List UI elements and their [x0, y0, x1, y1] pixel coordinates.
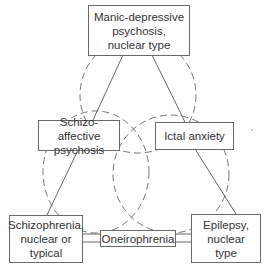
node-text-line: Schizophrenia,: [8, 218, 84, 232]
node-oneirophrenia: Oneirophrenia: [100, 230, 176, 247]
node-schizophrenia: Schizophrenia, nuclear or typical: [9, 215, 83, 263]
node-text-line: Epilepsy,: [203, 218, 249, 232]
node-text-line: type: [203, 246, 249, 260]
node-text-line: nuclear or: [8, 232, 84, 246]
node-text-line: psychosis,: [94, 24, 184, 38]
node-text-line: Schizo-affective: [39, 115, 119, 143]
node-text-line: psychosis: [39, 143, 119, 157]
connector-right-to-bottom-right: [195, 149, 236, 214]
node-manic-depressive: Manic-depressive psychosis, nuclear type: [88, 5, 190, 56]
node-text-line: Oneirophrenia: [102, 232, 175, 246]
connector-top-to-left: [93, 55, 123, 120]
node-ictal-anxiety: Ictal anxiety: [155, 122, 234, 150]
node-text-line: nuclear type: [94, 38, 184, 52]
stray-dot: [251, 129, 253, 131]
connector-top-to-right: [152, 55, 185, 122]
connector-left-to-bottom-left: [47, 150, 78, 215]
node-text-line: typical: [8, 246, 84, 260]
node-schizo-affective: Schizo-affective psychosis: [38, 120, 120, 151]
node-text-line: nuclear: [203, 232, 249, 246]
node-epilepsy: Epilepsy, nuclear type: [191, 214, 261, 263]
node-text-line: Ictal anxiety: [164, 129, 225, 143]
node-text-line: Manic-depressive: [94, 10, 184, 24]
